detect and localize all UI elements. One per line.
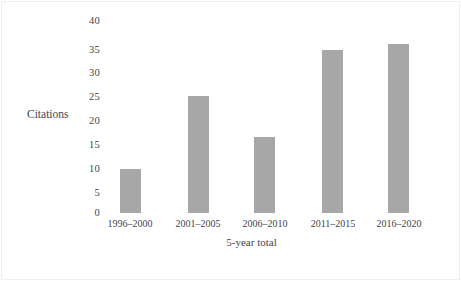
bar-chart-figure: Citations 40 35 30 25 20 15 10 5 0 1996–… <box>0 0 461 281</box>
x-tick-2016-2020: 2016–2020 <box>356 218 442 229</box>
x-axis-title-wrap: 5-year total <box>0 236 461 248</box>
x-axis-title: 5-year total <box>226 236 276 248</box>
